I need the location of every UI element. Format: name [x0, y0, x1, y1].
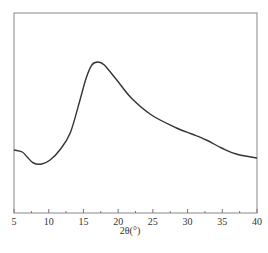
xrd-chart: 510152025303540 2θ(°) [0, 0, 268, 253]
x-tick-label: 15 [78, 216, 88, 227]
x-tick-label: 5 [12, 216, 17, 227]
x-tick-label: 35 [217, 216, 227, 227]
data-line [14, 62, 257, 164]
plot-frame [14, 13, 257, 213]
x-tick-label: 40 [252, 216, 262, 227]
x-tick-label: 10 [44, 216, 54, 227]
figure-caption [0, 242, 268, 253]
x-tick-label: 25 [148, 216, 158, 227]
x-tick-label: 30 [183, 216, 193, 227]
x-axis-label: 2θ(°) [120, 225, 140, 237]
x-axis-ticks [14, 209, 257, 213]
